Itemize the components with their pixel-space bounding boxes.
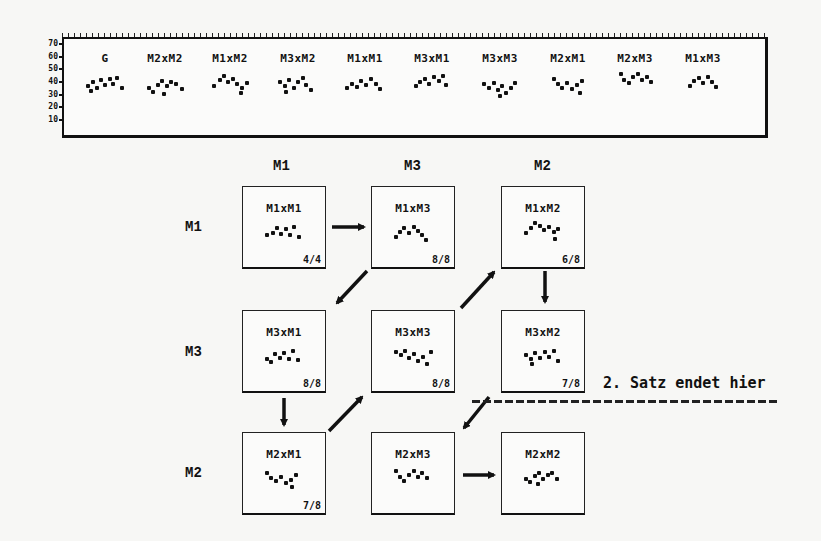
- sequence-arrows: [0, 0, 821, 541]
- annotation-text: 2. Satz endet hier: [603, 374, 766, 392]
- arrow-up-right-icon: [461, 272, 494, 308]
- arrow-down-left-icon: [337, 271, 367, 303]
- arrow-up-right-icon: [329, 397, 362, 431]
- dashed-divider: [472, 400, 777, 403]
